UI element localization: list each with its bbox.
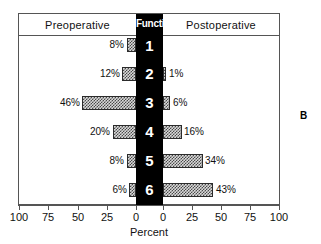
bar-label-preoperative-3: 46% (40, 96, 80, 110)
bar-preoperative-3 (82, 96, 136, 110)
x-axis-tick-label-8: 75 (235, 211, 265, 223)
x-axis-tick-3 (107, 206, 108, 210)
bar-label-preoperative-5: 8% (84, 154, 124, 168)
bar-preoperative-1 (127, 38, 136, 52)
x-axis-tick-9 (279, 206, 280, 210)
x-axis-tick-0 (19, 206, 20, 210)
bar-label-postoperative-4: 16% (184, 125, 224, 139)
bar-postoperative-4 (163, 125, 182, 139)
panel-letter: B (300, 110, 307, 121)
x-axis-tick-label-9: 100 (264, 211, 294, 223)
bar-postoperative-6 (163, 183, 213, 197)
bar-label-postoperative-6: 43% (216, 183, 256, 197)
function-number-4: 4 (136, 124, 163, 140)
header-label-preoperative: Preoperative (19, 16, 136, 34)
function-number-2: 2 (136, 66, 163, 82)
x-axis-tick-4 (136, 206, 137, 210)
x-axis-tick-8 (250, 206, 251, 210)
bar-label-postoperative-2: 1% (169, 67, 209, 81)
x-axis-tick-label-0: 100 (4, 211, 34, 223)
x-axis-tick-1 (48, 206, 49, 210)
bar-preoperative-4 (113, 125, 136, 139)
bar-preoperative-5 (127, 154, 136, 168)
x-axis-tick-6 (192, 206, 193, 210)
header-label-function: Function (136, 15, 163, 33)
bar-label-preoperative-4: 20% (70, 125, 110, 139)
x-axis-tick-label-4: 0 (121, 211, 151, 223)
x-axis-tick-label-7: 50 (206, 211, 236, 223)
x-axis-tick-2 (78, 206, 79, 210)
x-axis-tick-label-5: 0 (148, 211, 178, 223)
bar-postoperative-3 (163, 96, 170, 110)
x-axis-tick-label-6: 25 (177, 211, 207, 223)
function-number-1: 1 (136, 38, 163, 54)
function-number-3: 3 (136, 95, 163, 111)
bar-postoperative-2 (163, 67, 166, 81)
bar-label-preoperative-6: 6% (87, 183, 127, 197)
bar-label-postoperative-3: 6% (173, 96, 213, 110)
header-label-postoperative: Postoperative (163, 16, 279, 34)
bar-label-postoperative-5: 34% (205, 154, 245, 168)
function-number-6: 6 (136, 182, 163, 198)
x-axis-tick-label-2: 50 (63, 211, 93, 223)
bar-preoperative-6 (129, 183, 136, 197)
x-axis-tick-label-3: 25 (92, 211, 122, 223)
x-axis-title: Percent (18, 226, 280, 238)
figure-panel-b: Preoperative Postoperative Function 1 2 … (0, 0, 321, 244)
bar-preoperative-2 (122, 67, 136, 81)
function-number-5: 5 (136, 153, 163, 169)
x-axis-tick-label-1: 75 (33, 211, 63, 223)
bar-label-preoperative-1: 8% (84, 38, 124, 52)
bar-label-preoperative-2: 12% (80, 67, 120, 81)
bar-postoperative-5 (163, 154, 203, 168)
x-axis-tick-5 (163, 206, 164, 210)
x-axis-line (18, 205, 280, 206)
x-axis-tick-7 (221, 206, 222, 210)
